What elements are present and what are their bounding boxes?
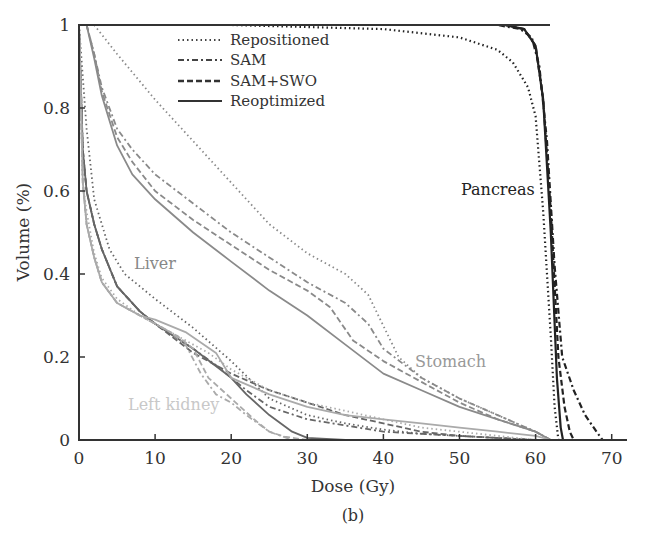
legend-label: SAM: [230, 51, 266, 69]
x-tick-label: 0: [74, 448, 85, 468]
figure-caption: (b): [342, 506, 365, 525]
annotation-stomach: Stomach: [415, 352, 486, 371]
x-tick-label: 40: [373, 448, 395, 468]
x-tick-label: 20: [220, 448, 242, 468]
annotation-liver: Liver: [134, 254, 176, 273]
curve-stomach-sam: [87, 25, 551, 440]
x-tick-label: 30: [296, 448, 318, 468]
plot-curves: [79, 25, 603, 440]
legend: Repositioned SAM SAM+SWO Reoptimized: [178, 31, 330, 110]
legend-item-repositioned: Repositioned: [178, 31, 330, 49]
legend-label: Repositioned: [230, 31, 330, 49]
legend-item-reoptimized: Reoptimized: [178, 92, 325, 110]
curve-pancreas-reoptimized: [79, 25, 563, 440]
y-tick-label: 0.6: [43, 181, 70, 201]
y-tick-label: 1: [59, 15, 70, 35]
dvh-chart: 010203040506070 00.20.40.60.81 Volume (%…: [0, 0, 648, 539]
curve-pancreas-sam: [79, 25, 603, 440]
legend-item-sam: SAM: [178, 51, 266, 69]
curve-stomach-repositioned: [94, 25, 551, 440]
curve-stomach-sam-swo: [87, 25, 551, 440]
x-tick-label: 70: [601, 448, 623, 468]
x-tick-label: 50: [449, 448, 471, 468]
curve-pancreas-sam-swo: [79, 25, 574, 440]
y-tick-label: 0: [59, 430, 70, 450]
y-tick-label: 0.8: [43, 98, 70, 118]
y-tick-label: 0.2: [43, 347, 70, 367]
x-tick-label: 60: [525, 448, 547, 468]
annotation-left-kidney: Left kidney: [128, 395, 219, 414]
curve-pancreas-repositioned: [79, 25, 558, 440]
annotation-pancreas: Pancreas: [461, 180, 535, 199]
y-tick-label: 0.4: [43, 264, 70, 284]
legend-label: SAM+SWO: [230, 72, 317, 90]
curve-stomach-reoptimized: [87, 25, 551, 440]
x-tick-label: 10: [144, 448, 166, 468]
legend-label: Reoptimized: [230, 92, 325, 110]
legend-item-sam-swo: SAM+SWO: [178, 72, 317, 90]
x-axis-title: Dose (Gy): [311, 476, 396, 496]
y-axis-title: Volume (%): [13, 183, 33, 282]
